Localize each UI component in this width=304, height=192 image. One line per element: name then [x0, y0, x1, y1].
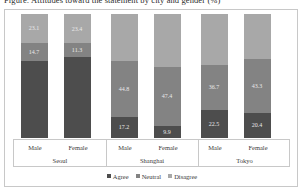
legend-swatch-icon — [168, 174, 172, 178]
bar-segment-neutral[interactable]: 47.4 — [154, 67, 181, 126]
legend-item-disagree[interactable]: Disagree — [168, 173, 197, 180]
bar-segment-agree[interactable]: 17.2 — [111, 117, 138, 138]
bar-value-label: 17.2 — [111, 124, 138, 131]
bar-segment-disagree[interactable]: 23.1 — [21, 14, 48, 43]
bar-seoul-female[interactable]: 11.323.4 — [64, 14, 91, 138]
bar-value-label: 47.4 — [154, 93, 181, 100]
bar-segment-neutral[interactable]: 36.7 — [201, 65, 228, 111]
legend-item-agree[interactable]: Agree — [107, 173, 129, 180]
bar-value-label: 44.8 — [111, 85, 138, 92]
bar-segment-disagree[interactable] — [111, 14, 138, 61]
bar-segment-neutral[interactable]: 11.3 — [64, 43, 91, 57]
bar-value-label: 9.9 — [154, 128, 181, 135]
axis-label-gender: Female — [234, 140, 282, 154]
bar-segment-disagree[interactable] — [201, 14, 228, 65]
legend-label: Neutral — [142, 173, 162, 180]
bar-seoul-male[interactable]: 14.723.1 — [21, 14, 48, 138]
bar-segment-disagree[interactable]: 23.4 — [64, 14, 91, 43]
axis-label-gender: Female — [54, 140, 102, 154]
axis-group-divider — [198, 140, 199, 166]
bar-value-label: 14.7 — [21, 48, 48, 55]
axis-row-city: SeoulShanghaiTokyo — [14, 154, 289, 167]
axis-label-city: Seoul — [14, 154, 106, 167]
bar-segment-agree[interactable]: 22.5 — [201, 110, 228, 138]
bar-tokyo-male[interactable]: 22.536.7 — [201, 14, 228, 138]
bar-segment-neutral[interactable]: 44.8 — [111, 61, 138, 117]
bar-segment-neutral[interactable]: 43.3 — [244, 59, 271, 113]
axis-row-gender: MaleFemaleMaleFemaleMaleFemale — [14, 140, 289, 154]
bar-segment-disagree[interactable] — [154, 14, 181, 67]
bar-value-label: 22.5 — [201, 121, 228, 128]
legend-item-neutral[interactable]: Neutral — [136, 173, 162, 180]
bar-segment-disagree[interactable] — [244, 14, 271, 59]
legend-swatch-icon — [107, 174, 111, 178]
bar-shanghai-male[interactable]: 17.244.8 — [111, 14, 138, 138]
bar-shanghai-female[interactable]: 9.947.4 — [154, 14, 181, 138]
legend-swatch-icon — [136, 174, 140, 178]
axis-label-gender: Male — [11, 140, 59, 154]
axis-group-divider — [106, 140, 107, 166]
bar-value-label: 36.7 — [201, 84, 228, 91]
axis-label-gender: Female — [144, 140, 192, 154]
bar-value-label: 23.1 — [21, 25, 48, 32]
bar-value-label: 20.4 — [244, 122, 271, 129]
bar-segment-agree[interactable]: 9.9 — [154, 126, 181, 138]
page-title: Figure: Attitudes toward the statement b… — [4, 0, 220, 5]
bar-segment-agree[interactable] — [21, 61, 48, 138]
axis-label-gender: Male — [101, 140, 149, 154]
chart-legend: AgreeNeutralDisagree — [5, 170, 299, 182]
bar-tokyo-female[interactable]: 20.443.3 — [244, 14, 271, 138]
bar-segment-agree[interactable] — [64, 57, 91, 138]
bar-value-label: 43.3 — [244, 82, 271, 89]
bar-value-label: 23.4 — [64, 25, 91, 32]
chart-frame: 14.723.111.323.417.244.89.947.422.536.72… — [4, 9, 298, 187]
legend-label: Agree — [113, 173, 129, 180]
chart-title-strip: Figure: Attitudes toward the statement b… — [0, 0, 304, 9]
axis-label-city: Tokyo — [198, 154, 291, 167]
category-axis: MaleFemaleMaleFemaleMaleFemale SeoulShan… — [13, 139, 290, 167]
bar-value-label: 11.3 — [64, 47, 91, 54]
bar-segment-neutral[interactable]: 14.7 — [21, 43, 48, 61]
legend-label: Disagree — [174, 173, 197, 180]
bar-segment-agree[interactable]: 20.4 — [244, 113, 271, 138]
plot-area: 14.723.111.323.417.244.89.947.422.536.72… — [13, 14, 290, 138]
axis-label-city: Shanghai — [106, 154, 198, 167]
